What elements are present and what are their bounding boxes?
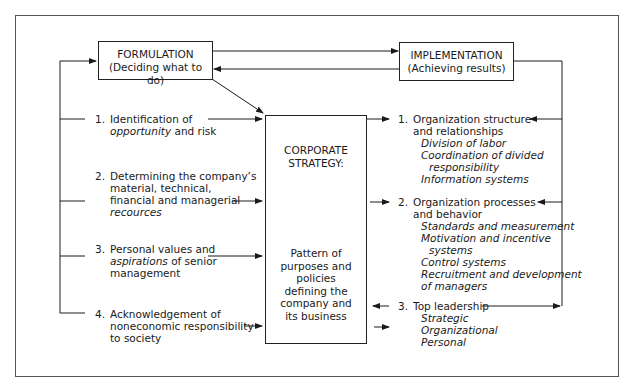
corporate-strategy-description: Pattern of purposes and policies definin… xyxy=(266,247,366,322)
formulation-subtitle: (Deciding what to do) xyxy=(99,61,212,87)
implementation-subtitle: (Achieving results) xyxy=(400,62,513,75)
corporate-strategy-box: CORPORATE STRATEGY: Pattern of purposes … xyxy=(265,115,367,344)
implementation-box: IMPLEMENTATION (Achieving results) xyxy=(399,42,514,81)
formulation-title: FORMULATION xyxy=(99,48,212,61)
formulation-box: FORMULATION (Deciding what to do) xyxy=(98,41,213,80)
implementation-title: IMPLEMENTATION xyxy=(400,49,513,62)
corporate-strategy-title: CORPORATE xyxy=(266,144,366,157)
corporate-strategy-title: STRATEGY: xyxy=(266,157,366,170)
